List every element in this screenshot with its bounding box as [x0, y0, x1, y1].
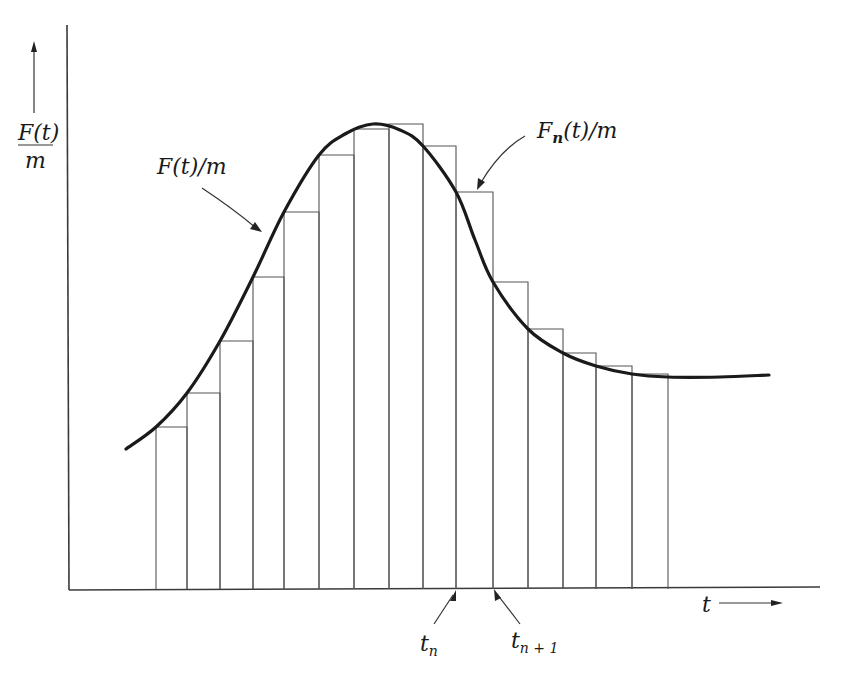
step-bar	[354, 129, 389, 589]
step-bar	[563, 353, 596, 589]
step-bar	[220, 341, 253, 589]
x-label: t	[702, 592, 711, 617]
curve-label: F(t)/m	[156, 154, 227, 179]
step-bar	[389, 124, 423, 589]
step-label: Fn(t)/m	[536, 118, 617, 147]
step-bar	[253, 277, 284, 589]
tn-pointer-arrow-icon	[434, 595, 453, 624]
step-bar	[284, 212, 319, 589]
step-bar	[493, 282, 528, 589]
y-label-denominator: m	[25, 148, 46, 173]
x-axis	[69, 587, 820, 590]
tn1-label: tn + 1	[511, 628, 558, 656]
y-label-numerator: F(t)	[17, 120, 59, 145]
x-axis-label: t	[702, 592, 783, 617]
curve-pointer-head-icon	[250, 222, 262, 232]
step-bar	[528, 329, 563, 589]
step-pointer-arrow-icon	[480, 136, 525, 184]
tn-pointer-head-icon	[450, 590, 456, 601]
step-function-diagram: F(t) m F(t)/m Fn(t)/m tn tn + 1 t	[0, 0, 844, 682]
tn1-pointer-arrow-icon	[497, 594, 520, 624]
tn-label: tn	[420, 631, 438, 659]
step-bar	[423, 146, 456, 589]
step-function-bars	[156, 124, 668, 589]
tn1-annotation: tn + 1	[494, 589, 558, 656]
x-arrowhead-icon	[771, 600, 783, 606]
step-bar	[319, 155, 354, 589]
step-pointer-head-icon	[477, 178, 485, 190]
step-bar	[456, 192, 493, 589]
y-arrowhead-icon	[31, 41, 37, 52]
step-bar	[632, 374, 668, 589]
tn-annotation: tn	[420, 590, 456, 659]
step-bar	[596, 366, 632, 589]
y-axis	[67, 25, 69, 590]
step-bar	[156, 427, 187, 589]
step-annotation: Fn(t)/m	[477, 118, 617, 190]
curve-pointer-arrow-icon	[202, 188, 256, 228]
tn1-pointer-head-icon	[494, 589, 501, 601]
step-bar	[187, 393, 220, 589]
curve-annotation: F(t)/m	[156, 154, 262, 232]
y-axis-label: F(t) m	[17, 41, 59, 173]
